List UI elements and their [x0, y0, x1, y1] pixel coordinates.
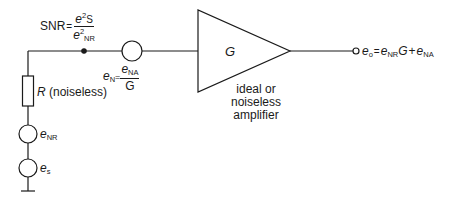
output-formula: eo=eNRG+eNA — [362, 45, 434, 59]
output-terminal — [353, 48, 359, 54]
input-noise-formula: eN= eNA G — [103, 63, 139, 92]
snr-lhs: SNR — [40, 19, 65, 33]
junction-dot — [82, 49, 86, 53]
amplifier-caption: ideal or noiseless amplifier — [226, 83, 286, 122]
amplifier-gain-label: G — [225, 45, 235, 58]
input-noise-fraction: eNA G — [120, 63, 139, 92]
signal-source-es — [19, 159, 37, 177]
source-s-label: es — [40, 162, 50, 176]
snr-formula: SNR= e2S e2NR — [40, 12, 95, 43]
noise-source-enr — [19, 125, 37, 143]
source-nr-label: eNR — [40, 128, 58, 142]
noise-source-en — [122, 41, 142, 61]
amplifier-triangle — [198, 10, 290, 92]
resistor-r — [23, 76, 34, 106]
snr-eq: = — [66, 21, 72, 32]
resistor-label: R (noiseless) — [37, 86, 107, 98]
snr-fraction: e2S e2NR — [73, 12, 95, 43]
